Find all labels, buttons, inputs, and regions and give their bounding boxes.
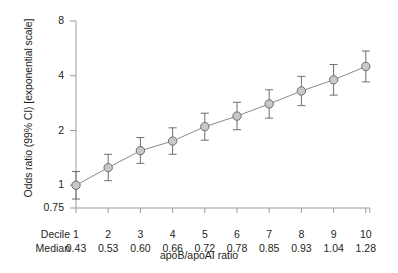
data-marker <box>329 76 337 84</box>
axes <box>76 21 370 208</box>
data-marker <box>72 181 80 189</box>
y-tick-label: 1 <box>30 179 64 189</box>
trend-line <box>76 67 366 186</box>
median-cell: 1.28 <box>346 242 386 254</box>
x-tick-marks <box>76 208 370 213</box>
data-marker <box>104 163 112 171</box>
data-points <box>72 51 370 199</box>
y-tick-marks <box>70 21 76 208</box>
data-marker <box>297 87 305 95</box>
data-marker <box>136 146 144 154</box>
data-marker <box>233 112 241 120</box>
y-tick-label: 4 <box>30 70 64 80</box>
data-marker <box>362 62 370 70</box>
y-tick-label: 2 <box>30 125 64 135</box>
y-tick-label: 8 <box>30 15 64 25</box>
data-marker <box>168 137 176 145</box>
decile-cell: 10 <box>346 228 386 240</box>
data-marker <box>201 122 209 130</box>
row-header-median: Median <box>8 242 70 254</box>
row-header-decile: Decile <box>8 228 70 240</box>
data-marker <box>265 100 273 108</box>
chart-figure: Odds ratio (99% CI) [exponential scale] … <box>0 0 398 273</box>
y-tick-label: 0.75 <box>30 202 64 212</box>
